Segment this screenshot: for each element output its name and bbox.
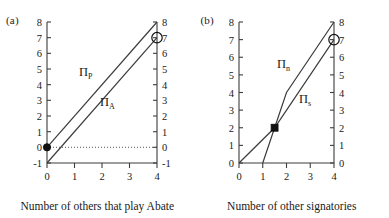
panel-a-ytick-left: 5 (37, 64, 42, 75)
panel-a-filled-dot-marker (43, 144, 50, 151)
panel-a-x-ticks (47, 163, 157, 168)
panel-a-ytick-left: 1 (37, 127, 42, 138)
panel-b-xtick: 2 (283, 171, 288, 182)
panel-b-left-ticks (239, 22, 243, 163)
panel-a-ytick-left: 4 (37, 80, 43, 91)
panel-b-curve-pi-s (239, 40, 334, 163)
panel-a-ytick-right: 2 (162, 111, 167, 122)
panel-b-ytick-right: 5 (339, 70, 344, 81)
panel-b-ytick-left: 4 (228, 88, 234, 99)
panel-a: (a) (0, 0, 195, 218)
panel-a-ytick-right: 4 (162, 80, 168, 91)
panel-b-ytick-right: 6 (339, 52, 344, 63)
panel-a-label-pi-p: ΠP (79, 65, 93, 81)
panel-a-ytick-left: 2 (37, 111, 42, 122)
panel-b-ytick-right: 4 (339, 88, 345, 99)
panel-b-ytick-right: 1 (339, 140, 344, 151)
panel-a-xtick: 0 (44, 171, 49, 182)
panel-b: (b) (195, 0, 389, 218)
panel-b-plot: 8 7 6 5 4 3 2 1 0 8 7 6 5 4 3 2 1 0 0 1 … (195, 0, 389, 218)
panel-b-ytick-right: 3 (339, 105, 344, 116)
panel-a-xtick: 3 (127, 171, 132, 182)
panel-a-xaxis-label: Number of others that play Abate (0, 200, 195, 212)
panel-a-xtick: 2 (99, 171, 104, 182)
panel-a-ytick-right: 8 (162, 17, 167, 28)
panel-a-ytick-left: -1 (33, 158, 42, 169)
figure-container: (a) (0, 0, 389, 218)
panel-b-xtick: 3 (307, 171, 312, 182)
panel-b-ytick-right: 0 (339, 158, 344, 169)
panel-a-ytick-left: 6 (37, 48, 42, 59)
panel-a-ytick-left: 0 (37, 142, 42, 153)
panel-a-ytick-right: -1 (162, 158, 171, 169)
panel-b-ytick-left: 7 (228, 35, 233, 46)
panel-b-xtick: 4 (331, 171, 337, 182)
panel-b-ytick-right: 8 (339, 17, 344, 28)
panel-b-filled-square-marker (271, 124, 278, 131)
panel-a-xtick: 1 (72, 171, 77, 182)
panel-a-left-ticks (47, 22, 51, 163)
panel-b-ytick-left: 5 (228, 70, 233, 81)
panel-b-ytick-left: 0 (228, 158, 233, 169)
panel-a-xtick: 4 (154, 171, 160, 182)
panel-a-ytick-right: 3 (162, 95, 167, 106)
panel-b-ytick-left: 3 (228, 105, 233, 116)
panel-b-label-pi-n: Πn (277, 57, 290, 73)
panel-b-xtick: 1 (260, 171, 265, 182)
panel-a-ytick-right: 0 (162, 142, 167, 153)
panel-b-x-ticks (239, 163, 334, 168)
panel-a-ytick-right: 5 (162, 64, 167, 75)
panel-a-ytick-left: 7 (37, 33, 42, 44)
panel-b-ytick-left: 6 (228, 52, 233, 63)
panel-a-ytick-right: 6 (162, 48, 167, 59)
panel-b-ytick-right: 7 (339, 35, 344, 46)
panel-b-xaxis-label: Number of other signatories (195, 200, 389, 212)
panel-a-curve-pi-p (47, 22, 157, 147)
panel-a-ytick-left: 8 (37, 17, 42, 28)
panel-a-ytick-right: 1 (162, 127, 167, 138)
panel-b-ytick-left: 2 (228, 123, 233, 134)
panel-b-label-pi-s: Πs (299, 92, 311, 108)
panel-b-ytick-left: 8 (228, 17, 233, 28)
panel-a-ytick-left: 3 (37, 95, 42, 106)
panel-a-ytick-right: 7 (162, 33, 167, 44)
panel-b-xtick: 0 (236, 171, 241, 182)
panel-a-label-pi-a: ΠA (100, 95, 115, 111)
panel-b-ytick-right: 2 (339, 123, 344, 134)
panel-b-ytick-left: 1 (228, 140, 233, 151)
panel-a-plot: 8 7 6 5 4 3 2 1 0 -1 8 7 6 5 4 3 2 1 0 -… (0, 0, 195, 218)
